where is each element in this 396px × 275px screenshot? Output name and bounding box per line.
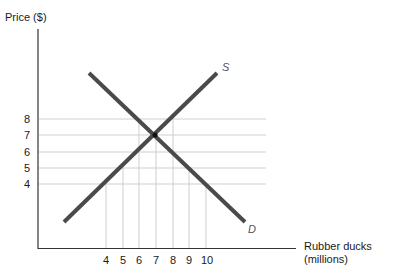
y-tick-6: 6 (18, 146, 30, 158)
y-tick-8: 8 (18, 113, 30, 125)
x-tick-10: 10 (199, 254, 215, 266)
supply-demand-chart: Price ($) Rubber ducks (millions) 8 7 6 … (0, 0, 396, 275)
y-tick-4: 4 (18, 178, 30, 190)
x-axis-label: Rubber ducks (millions) (304, 240, 372, 266)
supply-curve (64, 73, 217, 222)
equilibrium-point (153, 133, 158, 138)
x-tick-4: 4 (98, 254, 114, 266)
demand-curve (89, 73, 245, 222)
x-tick-6: 6 (131, 254, 147, 266)
x-tick-8: 8 (165, 254, 181, 266)
chart-canvas (0, 0, 396, 275)
demand-curve-label: D (248, 223, 256, 235)
y-tick-7: 7 (18, 129, 30, 141)
y-tick-5: 5 (18, 162, 30, 174)
y-axis-label: Price ($) (5, 11, 47, 23)
x-tick-5: 5 (115, 254, 131, 266)
x-tick-9: 9 (181, 254, 197, 266)
x-tick-7: 7 (148, 254, 164, 266)
horizontal-gridlines (39, 119, 266, 184)
supply-curve-label: S (222, 61, 229, 73)
